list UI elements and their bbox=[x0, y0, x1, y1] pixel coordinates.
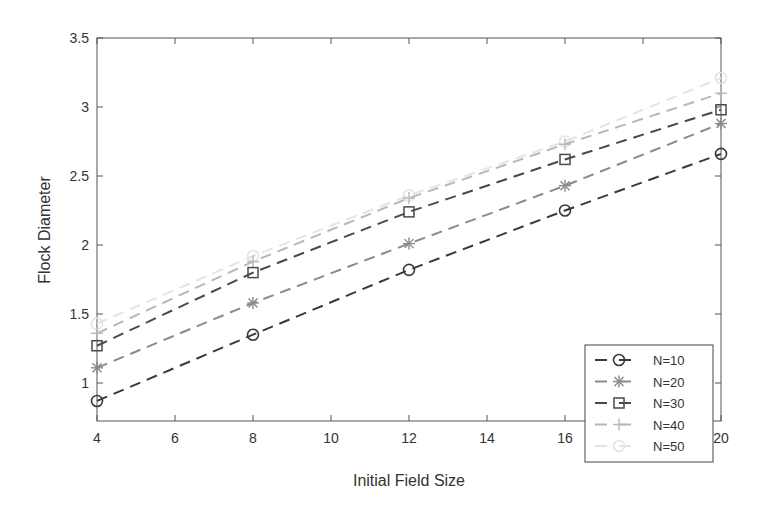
y-tick-label: 1 bbox=[81, 375, 89, 391]
legend-label: N=30 bbox=[653, 396, 684, 411]
asterisk-marker-icon bbox=[613, 376, 625, 388]
legend: N=10N=20N=30N=40N=50 bbox=[585, 345, 713, 462]
x-axis-title: Initial Field Size bbox=[353, 472, 465, 489]
y-tick-label: 2 bbox=[81, 237, 89, 253]
x-tick-label: 20 bbox=[713, 430, 729, 446]
x-tick-label: 4 bbox=[93, 430, 101, 446]
x-tick-label: 14 bbox=[479, 430, 495, 446]
line-chart: 46810121416182011.522.533.5 N=10N=20N=30… bbox=[0, 0, 771, 511]
y-tick-label: 2.5 bbox=[70, 168, 90, 184]
legend-label: N=50 bbox=[653, 439, 684, 454]
legend-label: N=10 bbox=[653, 353, 684, 368]
y-axis-title: Flock Diameter bbox=[36, 176, 53, 284]
x-tick-label: 10 bbox=[323, 430, 339, 446]
x-tick-label: 8 bbox=[249, 430, 257, 446]
asterisk-marker-icon bbox=[715, 118, 727, 130]
asterisk-marker-icon bbox=[559, 180, 571, 192]
y-tick-label: 3.5 bbox=[70, 30, 90, 46]
x-tick-label: 12 bbox=[401, 430, 417, 446]
x-tick-label: 6 bbox=[171, 430, 179, 446]
legend-label: N=20 bbox=[653, 375, 684, 390]
legend-label: N=40 bbox=[653, 418, 684, 433]
y-tick-label: 3 bbox=[81, 99, 89, 115]
y-tick-label: 1.5 bbox=[70, 306, 90, 322]
asterisk-marker-icon bbox=[247, 297, 259, 309]
x-tick-label: 16 bbox=[557, 430, 573, 446]
asterisk-marker-icon bbox=[403, 238, 415, 250]
asterisk-marker-icon bbox=[91, 362, 103, 374]
